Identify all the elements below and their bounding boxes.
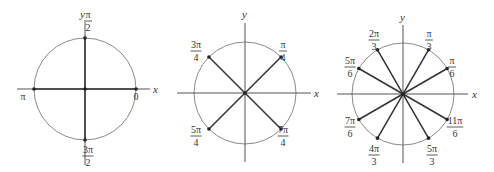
angle-label: π3 [425,28,433,52]
angle-denominator: 6 [450,68,455,79]
angle-label: π2 [84,9,92,33]
y-axis-label: y [399,11,405,23]
angle-denominator: 4 [194,52,199,63]
radius-line [245,57,281,93]
angle-point [357,118,361,122]
angle-numerator: π [449,55,454,66]
angle-point [32,87,36,91]
angle-numerator: π [280,39,285,50]
y-axis-label: y [79,8,85,20]
angle-denominator: 6 [348,68,353,79]
angle-label: 7π4 [278,124,289,148]
angle-label: 7π6 [345,115,356,139]
x-axis-label: x [313,87,319,99]
angle-numerator: 4π [369,143,379,154]
angle-numerator: 11π [448,115,463,126]
panel-quarter: xy0π2π3π2 [17,8,158,168]
angle-denominator: 3 [427,41,432,52]
angle-numerator: 7π [345,115,355,126]
angle-denominator: 2 [86,22,91,33]
angle-numerator: 7π [278,124,288,135]
radius-line [209,93,245,129]
angle-numerator: 5π [191,124,201,135]
angle-point [83,36,87,40]
angle-denominator: 4 [281,137,286,148]
angle-label: 3π2 [83,144,94,168]
panel-sixth: xyπ6π32π35π67π64π35π311π6 [337,11,477,167]
origin-point [401,92,405,96]
angle-point [376,136,380,140]
angle-value: 0 [134,91,139,102]
angle-label: 3π4 [191,39,202,63]
angle-numerator: 5π [345,55,355,66]
angle-label: π6 [448,55,456,79]
angle-label: 11π6 [447,115,464,139]
unit-circle-diagrams: xy0π2π3π2xyπ43π45π47π4xyπ6π32π35π67π64π3… [0,0,494,172]
angle-denominator: 6 [453,128,458,139]
angle-denominator: 2 [86,157,91,168]
angle-numerator: 3π [83,144,93,155]
origin-point [243,91,247,95]
origin-point [83,87,87,91]
angle-denominator: 3 [372,156,377,167]
angle-label: 5π4 [191,124,202,148]
angle-numerator: 2π [369,28,379,39]
angle-label: 4π3 [369,143,380,167]
angle-numerator: π [426,28,431,39]
angle-denominator: 6 [348,128,353,139]
angle-denominator: 3 [372,41,377,52]
x-axis-label: x [152,83,158,95]
angle-label: π4 [279,39,287,63]
angle-label: π [20,91,25,102]
angle-label: 5π3 [427,143,438,167]
angle-point [427,136,431,140]
angle-label: 0 [134,91,139,102]
angle-numerator: 3π [191,39,201,50]
angle-numerator: 5π [427,143,437,154]
y-axis-label: y [241,8,247,20]
angle-point [357,67,361,71]
angle-denominator: 4 [194,137,199,148]
panel-eighth: xyπ43π45π47π4 [177,8,319,162]
angle-point [83,138,87,142]
angle-point [207,55,211,59]
x-axis-label: x [471,88,477,100]
angle-label: 5π6 [345,55,356,79]
angle-numerator: π [85,9,90,20]
angle-denominator: 3 [430,156,435,167]
angle-value: π [20,91,25,102]
angle-point [207,127,211,131]
angle-denominator: 4 [281,52,286,63]
radius-line [209,57,245,93]
radius-line [245,93,281,129]
